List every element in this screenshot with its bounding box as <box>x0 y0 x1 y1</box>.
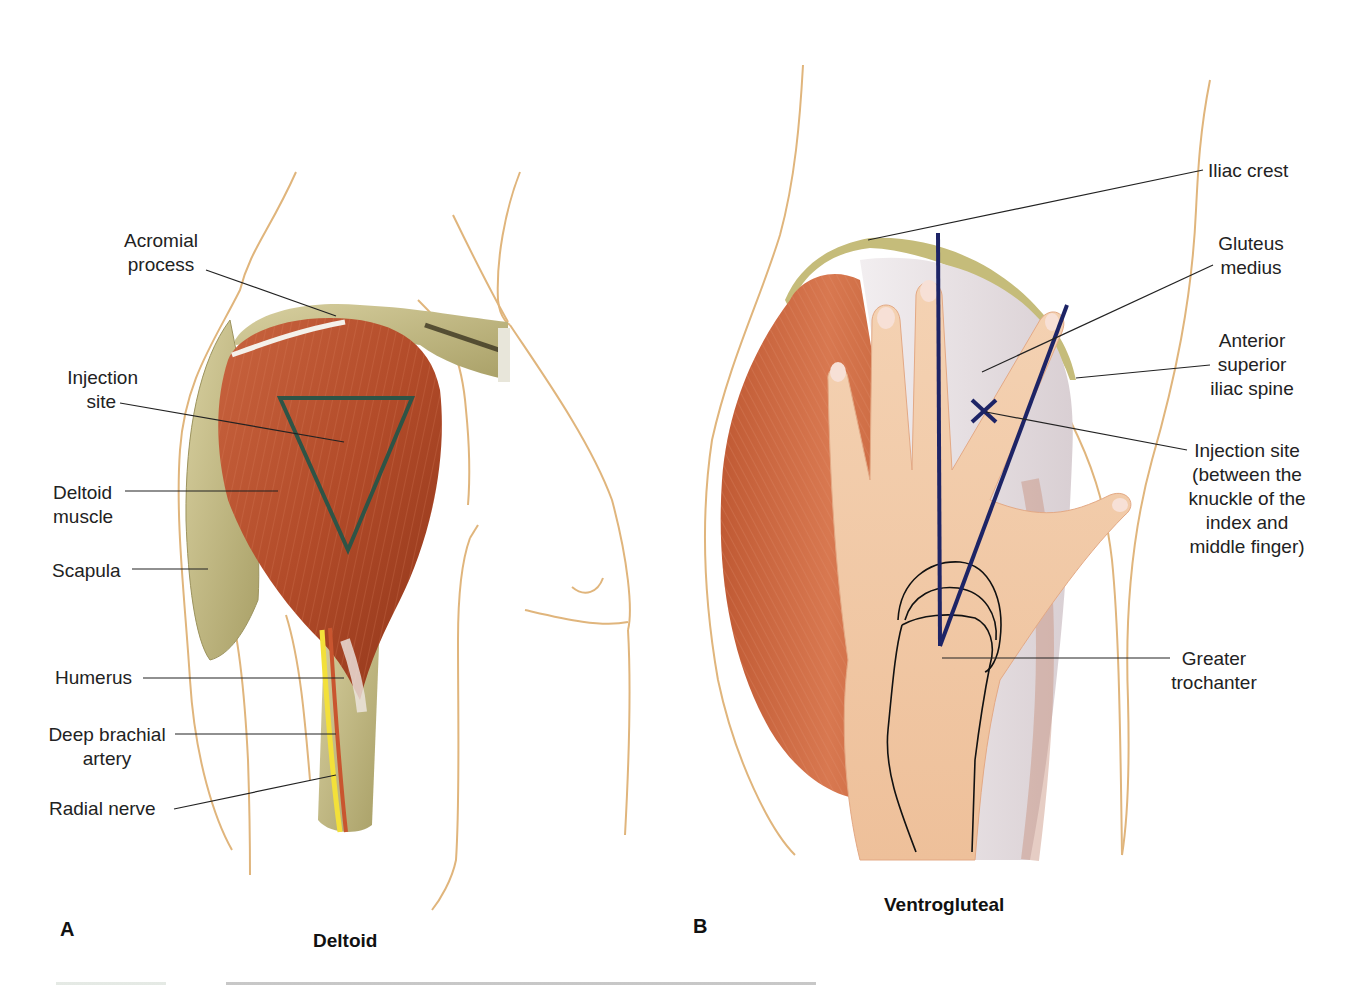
label-line: site <box>48 390 138 414</box>
label-line: Deep brachial <box>40 723 174 747</box>
label-line: iliac spine <box>1200 377 1304 401</box>
label-radial-nerve: Radial nerve <box>49 797 156 821</box>
label-deep-brachial-artery: Deep brachial artery <box>40 723 174 771</box>
label-line: index and <box>1180 511 1314 535</box>
label-gluteus-medius: Gluteus medius <box>1205 232 1297 280</box>
label-line: Gluteus <box>1205 232 1297 256</box>
label-humerus: Humerus <box>55 666 132 690</box>
label-deltoid-muscle: Deltoid muscle <box>53 481 113 529</box>
label-iliac-crest: Iliac crest <box>1208 159 1288 183</box>
label-line: trochanter <box>1164 671 1264 695</box>
anatomy-illustration <box>0 0 1352 985</box>
label-line: (between the <box>1180 463 1314 487</box>
label-line: superior <box>1200 353 1304 377</box>
label-anterior-superior-iliac-spine: Anterior superior iliac spine <box>1200 329 1304 401</box>
figure-caption-clipped <box>56 978 816 985</box>
label-line: medius <box>1205 256 1297 280</box>
panel-title-deltoid: Deltoid <box>313 930 377 952</box>
label-line: Greater <box>1164 647 1264 671</box>
label-scapula: Scapula <box>52 559 121 583</box>
label-line: knuckle of the <box>1180 487 1314 511</box>
label-line: process <box>112 253 210 277</box>
label-line: Injection <box>48 366 138 390</box>
label-line: Deltoid <box>53 481 113 505</box>
panel-letter-a: A <box>60 918 74 941</box>
label-line: Injection site <box>1180 439 1314 463</box>
panel-title-ventrogluteal: Ventrogluteal <box>884 894 1004 916</box>
ventrogluteal-panel-art <box>705 65 1213 860</box>
label-injection-site-deltoid: Injection site <box>48 366 138 414</box>
panel-letter-b: B <box>693 915 707 938</box>
deltoid-panel-art <box>120 172 630 910</box>
label-line: middle finger) <box>1180 535 1314 559</box>
label-line: artery <box>40 747 174 771</box>
label-greater-trochanter: Greater trochanter <box>1164 647 1264 695</box>
label-injection-site-ventrogluteal: Injection site (between the knuckle of t… <box>1180 439 1314 559</box>
label-acromial-process: Acromial process <box>112 229 210 277</box>
label-line: Anterior <box>1200 329 1304 353</box>
label-line: Acromial <box>112 229 210 253</box>
label-line: muscle <box>53 505 113 529</box>
